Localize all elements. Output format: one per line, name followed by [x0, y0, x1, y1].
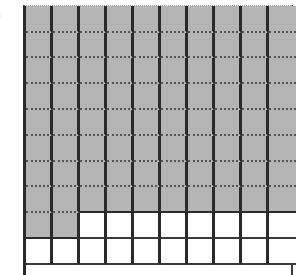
grid-cell-shaded	[134, 33, 161, 58]
grid-cell-shaded	[80, 6, 107, 33]
grid-cell-shaded	[80, 110, 107, 136]
grid-cell-empty	[188, 213, 215, 239]
grid-cell-shaded	[269, 84, 296, 110]
grid-cell-shaded	[188, 6, 215, 33]
grid-cell-shaded	[161, 58, 188, 84]
grid-cell-shaded	[80, 33, 107, 58]
grid-cell-shaded	[53, 187, 80, 213]
grid-cell-shaded	[134, 58, 161, 84]
grid-cell-shaded	[26, 33, 53, 58]
grid-cell-empty	[161, 213, 188, 239]
grid-cell-shaded	[269, 162, 296, 187]
grid-cell-shaded	[242, 162, 269, 187]
grid-cell-shaded	[242, 187, 269, 213]
grid-cell-shaded	[215, 58, 242, 84]
grid-cell-shaded	[188, 58, 215, 84]
grid-cell-shaded	[188, 187, 215, 213]
grid-cell-shaded	[269, 187, 296, 213]
grid-cell-shaded	[53, 162, 80, 187]
grid-cell-shaded	[53, 136, 80, 162]
grid-cell-empty	[26, 239, 53, 265]
grid-cell-shaded	[242, 84, 269, 110]
grid-cell-shaded	[215, 162, 242, 187]
grid-cell-shaded	[107, 6, 134, 33]
grid-cell-shaded	[161, 162, 188, 187]
grid-cell-shaded	[188, 84, 215, 110]
grid-cell-shaded	[134, 162, 161, 187]
grid-cell-shaded	[80, 162, 107, 187]
grid-cell-shaded	[53, 213, 80, 239]
grid-cell-empty	[269, 213, 296, 239]
grid-cell-empty	[269, 239, 296, 265]
grid-cell-shaded	[161, 84, 188, 110]
grid-cell-shaded	[80, 136, 107, 162]
grid-cell-shaded	[107, 162, 134, 187]
grid-cell-shaded	[53, 84, 80, 110]
grid-cell-shaded	[53, 58, 80, 84]
grid-cell-shaded	[107, 187, 134, 213]
grid-cell-empty	[242, 239, 269, 265]
figure-label: )	[0, 4, 1, 24]
grid-cell-empty	[134, 213, 161, 239]
grid-cell-shaded	[188, 136, 215, 162]
grid-cell-shaded	[80, 84, 107, 110]
grid-cell-shaded	[107, 58, 134, 84]
grid-cell-shaded	[161, 110, 188, 136]
grid-cell-shaded	[107, 136, 134, 162]
grid-cell-shaded	[53, 110, 80, 136]
grid-cell-shaded	[161, 6, 188, 33]
grid-cell-shaded	[269, 110, 296, 136]
grid-cell-shaded	[242, 136, 269, 162]
grid-cell-shaded	[215, 6, 242, 33]
grid-cell-empty	[107, 239, 134, 265]
grid-cell-shaded	[26, 110, 53, 136]
grid-cell-shaded	[26, 136, 53, 162]
grid-cell-shaded	[80, 187, 107, 213]
grid-cell-shaded	[26, 6, 53, 33]
grid-cell-shaded	[26, 162, 53, 187]
grid-cell-shaded	[242, 110, 269, 136]
grid-cell-shaded	[269, 58, 296, 84]
grid-cell-shaded	[107, 110, 134, 136]
grid-cell-empty	[53, 239, 80, 265]
grid-cell-shaded	[269, 136, 296, 162]
grid-cell-shaded	[215, 136, 242, 162]
grid-cell-empty	[107, 213, 134, 239]
grid-cell-empty	[161, 239, 188, 265]
grid-cell-empty	[134, 239, 161, 265]
grid-cell-shaded	[188, 162, 215, 187]
grid-cell-shaded	[188, 110, 215, 136]
grid-cell-shaded	[269, 33, 296, 58]
grid-cell-shaded	[161, 187, 188, 213]
grid-cell-shaded	[53, 6, 80, 33]
grid-cell-shaded	[53, 33, 80, 58]
grid-cell-shaded	[161, 33, 188, 58]
grid-cell-shaded	[134, 187, 161, 213]
grid-cell-shaded	[107, 33, 134, 58]
grid-cell-empty	[188, 239, 215, 265]
grid-cell-shaded	[269, 6, 296, 33]
grid-cell-shaded	[26, 187, 53, 213]
grid-cell-empty	[215, 213, 242, 239]
grid-cell-shaded	[134, 110, 161, 136]
grid-cell-shaded	[215, 33, 242, 58]
grid-cell-empty	[242, 213, 269, 239]
grid-cell-shaded	[134, 6, 161, 33]
grid-cell-shaded	[107, 84, 134, 110]
grid-cell-empty	[215, 239, 242, 265]
grid-cell-shaded	[134, 136, 161, 162]
hundred-grid	[23, 5, 293, 275]
grid-cell-shaded	[26, 58, 53, 84]
grid-cell-shaded	[242, 6, 269, 33]
grid-cell-shaded	[242, 33, 269, 58]
grid-cell-empty	[80, 239, 107, 265]
grid-cell-shaded	[215, 84, 242, 110]
grid-cell-shaded	[26, 84, 53, 110]
grid-cell-shaded	[80, 58, 107, 84]
grid-cell-shaded	[215, 187, 242, 213]
grid-cell-shaded	[161, 136, 188, 162]
grid-cell-shaded	[26, 213, 53, 239]
grid-cell-shaded	[242, 58, 269, 84]
grid-cell-shaded	[188, 33, 215, 58]
grid-cell-shaded	[215, 110, 242, 136]
